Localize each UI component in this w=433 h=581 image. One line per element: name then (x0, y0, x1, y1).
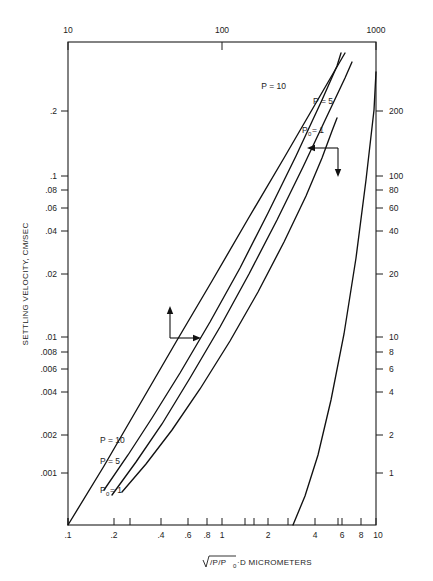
left-axis-arrow-pair (167, 306, 201, 341)
left-tick-label: .001 (40, 468, 57, 478)
left-tick-label: .06 (45, 203, 57, 213)
bottom-tick-label: .6 (184, 530, 191, 540)
left-axis: .2 .1 .08 .06 .04 .02 .01 .008 .006 .004… (40, 106, 68, 478)
left-tick-label: .008 (40, 347, 57, 357)
curve-right-axis (293, 72, 376, 525)
plot-frame (68, 42, 376, 525)
right-tick-label: 80 (389, 185, 399, 195)
right-tick-label: 6 (389, 364, 394, 374)
curve-label-p10-top: P = 10 (261, 81, 286, 91)
curve-left-reference (68, 53, 345, 525)
left-tick-label: .1 (50, 171, 57, 181)
right-axis: 200 100 80 60 40 20 10 8 6 4 2 1 (376, 106, 403, 478)
right-tick-label: 4 (389, 387, 394, 397)
bottom-tick-label: 10 (373, 530, 383, 540)
x-axis-title-tail: ·D MICROMETERS (237, 558, 312, 567)
right-tick-label: 100 (389, 171, 403, 181)
right-tick-label: 8 (389, 347, 394, 357)
right-tick-label: 20 (389, 269, 399, 279)
curve-label-p10-bottom: P = 10 (100, 435, 125, 445)
right-tick-label: 60 (389, 203, 399, 213)
top-tick-label: 1000 (367, 25, 386, 35)
curve-label-p5-top: P = 5 (313, 96, 333, 106)
right-tick-label: 2 (389, 430, 394, 440)
curve-label-p0-top-tail: = 1 (312, 125, 324, 135)
right-tick-label: 10 (389, 332, 399, 342)
y-axis-title: SETTLING VELOCITY, CM/SEC (21, 223, 30, 346)
bottom-tick-label: .2 (110, 530, 117, 540)
right-axis-arrow-pair (307, 145, 341, 177)
right-tick-label: 1 (389, 468, 394, 478)
left-tick-label: .004 (40, 387, 57, 397)
chart-figure: 10 100 1000 .1 .2 .4 .6 .8 1 2 4 6 8 10 (0, 0, 433, 581)
left-tick-label: .02 (45, 269, 57, 279)
curve-label-p0-bottom: P 0 = 1 (100, 485, 122, 497)
bottom-tick-label: 1 (220, 530, 225, 540)
bottom-tick-label: 2 (266, 530, 271, 540)
bottom-tick-label: .8 (203, 530, 210, 540)
curve-label-p5-bottom: P = 5 (100, 456, 120, 466)
bottom-tick-label: 8 (359, 530, 364, 540)
x-axis-title-main: /P/P (210, 558, 226, 567)
left-tick-label: .04 (45, 226, 57, 236)
curve-label-p0-bottom-tail: = 1 (110, 485, 122, 495)
bottom-tick-label: 6 (340, 530, 345, 540)
x-axis-title: /P/P 0 ·D MICROMETERS (203, 556, 312, 569)
left-tick-label: .006 (40, 364, 57, 374)
top-axis: 10 100 1000 (63, 25, 385, 50)
left-tick-label: .2 (50, 106, 57, 116)
right-tick-label: 200 (389, 106, 403, 116)
bottom-tick-label: .1 (64, 530, 71, 540)
top-tick-label: 100 (215, 25, 229, 35)
left-tick-label: .002 (40, 430, 57, 440)
right-tick-label: 40 (389, 226, 399, 236)
curve-p10 (104, 53, 341, 490)
bottom-axis: .1 .2 .4 .6 .8 1 2 4 6 8 10 (64, 518, 383, 540)
top-tick-label: 10 (63, 25, 73, 35)
left-tick-label: .01 (45, 332, 57, 342)
chart-canvas: 10 100 1000 .1 .2 .4 .6 .8 1 2 4 6 8 10 (0, 0, 433, 581)
left-tick-label: .08 (45, 185, 57, 195)
bottom-tick-label: 4 (313, 530, 318, 540)
bottom-tick-label: .4 (157, 530, 164, 540)
